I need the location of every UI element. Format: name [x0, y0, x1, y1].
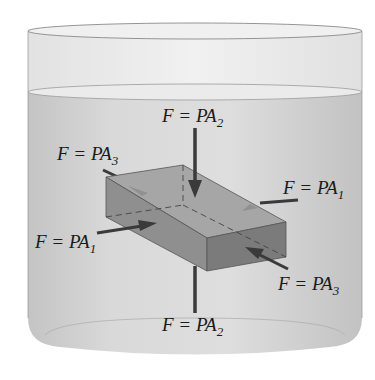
fluid-surface [28, 84, 362, 100]
container-upper-wall [28, 31, 362, 92]
diagram-canvas: F = PA2 F = PA3 F = PA1 F = PA1 F = PA3 … [0, 0, 375, 380]
container-rim [28, 23, 362, 39]
